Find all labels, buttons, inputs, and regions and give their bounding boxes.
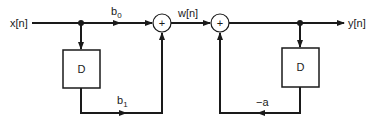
intermediate-label: w[n] <box>177 7 198 19</box>
gain-b0-label: b0 <box>111 5 122 20</box>
gain-a-label: −a <box>256 96 269 108</box>
input-label: x[n] <box>10 17 28 29</box>
adder-1: + <box>153 14 171 32</box>
delay-block-2: D <box>282 48 319 87</box>
adder-2: + <box>211 14 229 32</box>
svg-text:D: D <box>78 63 86 75</box>
gain-b1-label: b1 <box>117 94 128 109</box>
svg-text:D: D <box>297 61 305 73</box>
output-label: y[n] <box>348 17 366 29</box>
plus-icon: + <box>217 17 223 29</box>
delay-block-1: D <box>63 50 100 88</box>
plus-icon: + <box>159 17 165 29</box>
block-diagram: x[n] b0 D b1 + w[n] + y[n] <box>0 0 379 124</box>
